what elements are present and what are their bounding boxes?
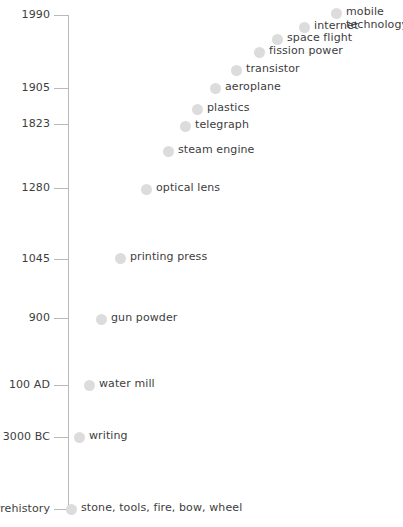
event-dot-icon (192, 104, 203, 115)
axis-tick-mark (54, 188, 68, 189)
axis-tick-label: 1990 (22, 8, 50, 21)
timeline-chart: 19901905182312801045900100 AD3000 BCPreh… (0, 0, 403, 527)
event-label: water mill (99, 378, 155, 391)
event-dot-icon (96, 314, 107, 325)
event-dot-icon (84, 380, 95, 391)
axis-tick-label: 3000 BC (3, 430, 50, 443)
axis-tick-mark (54, 385, 68, 386)
event-dot-icon (163, 146, 174, 157)
event-label: writing (89, 430, 128, 443)
axis-tick-label: 100 AD (9, 378, 50, 391)
axis-tick-mark (54, 88, 68, 89)
event-label: optical lens (156, 182, 220, 195)
event-dot-icon (254, 47, 265, 58)
axis-tick-mark (54, 124, 68, 125)
axis-tick-mark (54, 15, 68, 16)
event-label: space flight (287, 32, 352, 45)
axis-tick-label: 900 (29, 311, 50, 324)
axis-tick-label: 1280 (22, 181, 50, 194)
event-dot-icon (74, 432, 85, 443)
event-label: gun powder (111, 312, 177, 325)
axis-tick-mark (54, 318, 68, 319)
event-label: stone, tools, fire, bow, wheel (81, 502, 242, 515)
axis-tick-label: Prehistory (0, 502, 50, 515)
timeline-axis-line (68, 15, 69, 509)
event-dot-icon (331, 8, 342, 19)
axis-tick-mark (54, 437, 68, 438)
event-label: printing press (130, 251, 207, 264)
event-label: aeroplane (225, 81, 281, 94)
event-dot-icon (231, 65, 242, 76)
event-label: telegraph (195, 119, 249, 132)
event-dot-icon (210, 83, 221, 94)
event-dot-icon (180, 121, 191, 132)
event-label: steam engine (178, 144, 254, 157)
event-label: fission power (269, 45, 343, 58)
event-label: plastics (207, 102, 249, 115)
axis-tick-label: 1045 (22, 252, 50, 265)
axis-tick-mark (54, 259, 68, 260)
event-dot-icon (141, 184, 152, 195)
axis-tick-label: 1905 (22, 81, 50, 94)
event-dot-icon (115, 253, 126, 264)
event-label: transistor (246, 63, 300, 76)
axis-tick-label: 1823 (22, 117, 50, 130)
event-dot-icon (66, 504, 77, 515)
